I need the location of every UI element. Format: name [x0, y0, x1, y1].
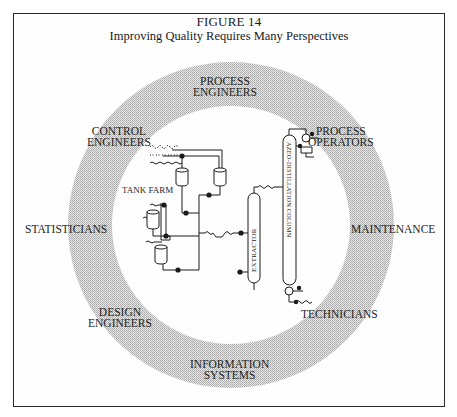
label-design-engineers: DESIGN ENGINEERS: [88, 307, 152, 329]
header-line-1: [163, 156, 219, 168]
tank-a: [176, 168, 188, 186]
perspectives-ring: [68, 62, 394, 388]
tank-d: [155, 245, 167, 264]
label-control-engineers: CONTROL ENGINEERS: [87, 126, 151, 148]
label-extractor: EXTRACTOR: [251, 228, 258, 272]
label-process-operators: PROCESS OPERATORS: [308, 126, 374, 148]
label-process-engineers: PROCESS ENGINEERS: [193, 76, 257, 98]
perspectives-diagram: [0, 0, 457, 417]
label-tank-farm: TANK FARM: [122, 186, 173, 195]
extractor-overhead: [254, 186, 283, 194]
tank-b: [214, 168, 226, 186]
label-technicians: TECHNICIANS: [301, 309, 378, 320]
reboiler: [285, 287, 293, 295]
label-statisticians: STATISTICIANS: [25, 224, 107, 235]
feed-streams: [150, 146, 182, 165]
label-maintenance: MAINTENANCE: [351, 224, 435, 235]
label-information-systems: INFORMATION SYSTEMS: [190, 359, 269, 381]
tank-c: [147, 210, 159, 229]
label-azeo-column: AZEO-DISTILLATION COLUMN: [286, 142, 293, 237]
